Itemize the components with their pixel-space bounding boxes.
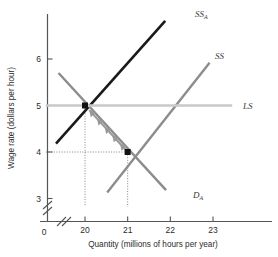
origin-label: 0 [42, 227, 47, 237]
label-ss-a-subscript: A [203, 14, 208, 20]
x-tick-label-21: 21 [123, 225, 133, 235]
y-tick-label-5: 5 [36, 101, 41, 111]
label-ls: LS [242, 101, 253, 111]
y-tick-label-4: 4 [36, 147, 41, 157]
label-ls-text: LS [242, 101, 253, 111]
chart-background [0, 0, 278, 257]
chart-figure: 2021222334560 SSASSLSDA Quantity (millio… [0, 0, 278, 257]
y-tick-label-3: 3 [36, 194, 41, 204]
marker-equilibrium-lower [125, 149, 131, 155]
x-axis-title: Quantity (millions of hours per year) [88, 240, 218, 249]
y-axis-title: Wage rate (dollars per hour) [7, 67, 16, 169]
label-ss-text: SS [215, 51, 225, 61]
x-tick-label-20: 20 [80, 225, 90, 235]
x-tick-label-22: 22 [166, 225, 176, 235]
marker-equilibrium-upper [82, 103, 88, 109]
x-tick-label-23: 23 [208, 225, 218, 235]
label-ss: SS [215, 51, 225, 61]
labour-market-chart: 2021222334560 SSASSLSDA Quantity (millio… [0, 0, 278, 257]
y-tick-label-6: 6 [36, 54, 41, 64]
label-d-a-subscript: A [199, 195, 204, 201]
